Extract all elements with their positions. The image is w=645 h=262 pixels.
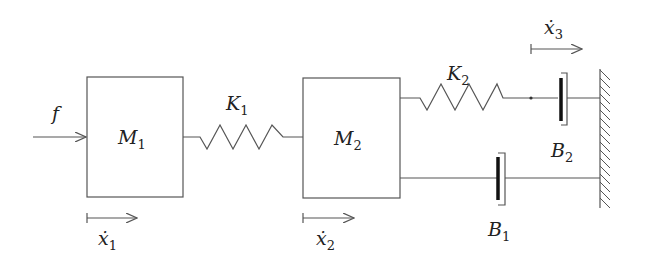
velocity-x2-arrow [303, 213, 354, 223]
force-label: f [50, 102, 62, 124]
damper-b2 [561, 73, 600, 125]
damper-b1-label: B1 [487, 218, 510, 244]
mass-m2-label: M2 [333, 127, 362, 153]
spring-k2 [400, 84, 558, 110]
velocity-x1-label: ẋ1 [98, 227, 117, 253]
mass-m1-label: M1 [117, 126, 146, 152]
spring-k2-label: K2 [446, 62, 469, 88]
fixed-wall [600, 69, 610, 208]
velocity-x1-arrow [87, 213, 137, 223]
velocity-x3-label: ẋ3 [544, 16, 563, 42]
damper-b2-label: B2 [550, 139, 573, 165]
node-dot [529, 96, 532, 99]
spring-k1 [183, 125, 303, 149]
mechanical-diagram: f M1 K1 M2 K2 B2 B1 [0, 0, 645, 262]
velocity-x2-label: ẋ2 [316, 227, 335, 253]
spring-k1-label: K1 [225, 92, 248, 118]
velocity-x3-arrow [531, 44, 582, 54]
